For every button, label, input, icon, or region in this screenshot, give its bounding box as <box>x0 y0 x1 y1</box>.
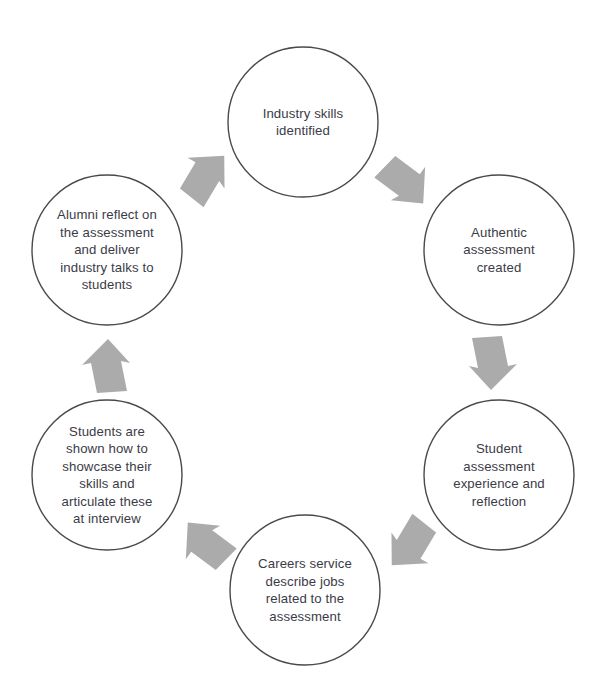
cycle-diagram: Industry skills identifiedAuthentic asse… <box>0 0 606 694</box>
flow-arrow-industry-to-authentic <box>371 146 443 218</box>
node-circle-careers-service <box>230 515 380 665</box>
node-circle-alumni-reflect <box>32 175 182 325</box>
flow-arrow-authentic-to-student <box>469 336 517 390</box>
node-circle-student-experience <box>424 400 574 550</box>
node-circle-students-showcase <box>32 400 182 550</box>
node-circle-authentic-assessment <box>424 175 574 325</box>
flow-arrow-students-to-alumni <box>82 339 130 393</box>
flow-arrow-careers-to-students <box>168 508 240 580</box>
flow-arrow-student-to-careers <box>375 510 447 582</box>
flow-arrow-alumni-to-industry <box>169 138 241 210</box>
cycle-diagram-canvas <box>0 0 606 694</box>
node-circle-industry-skills <box>228 47 378 197</box>
